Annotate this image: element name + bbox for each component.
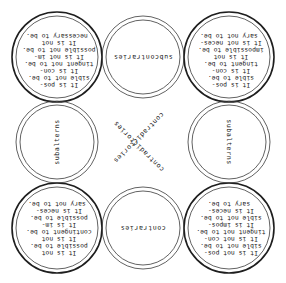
corner-top-right-text: It is pos- sible to be. It is con- tinge… [194, 32, 263, 89]
prop-line: necessary to be. [26, 32, 88, 40]
relation-label-contraries: contraries [120, 224, 166, 232]
prop-line: sary to be. [208, 200, 250, 208]
modal-square-of-opposition: It is pos- sible not to be. It is con- t… [0, 0, 286, 283]
relation-top: subcontraries [102, 16, 184, 98]
corner-top-right: It is pos- sible to be. It is con- tinge… [184, 12, 274, 102]
relation-label-contradictories-2: contradictories [112, 111, 166, 165]
relation-label-subalterns-left: subalterns [53, 119, 61, 165]
relation-label-subcontraries: subcontraries [113, 53, 172, 61]
relation-left: subalterns [16, 101, 98, 183]
relation-bottom: contraries [102, 187, 184, 269]
diagram-canvas: It is pos- sible not to be. It is con- t… [0, 0, 286, 283]
relation-label-contradictories-1: contradictories [112, 119, 166, 173]
corner-bottom-right-text: It is not pos- sible not to be. It is no… [192, 200, 265, 257]
corner-top-left: It is pos- sible not to be. It is con- t… [12, 12, 102, 102]
relation-right: subalterns [188, 101, 270, 183]
corner-top-left-text: It is pos- sible not to be. It is con- t… [19, 32, 96, 89]
relation-label-subalterns-right: subalterns [225, 119, 233, 165]
corner-bottom-left-text: It is not possible to be. It is not cont… [22, 200, 91, 257]
rotated-diagram: It is pos- sible not to be. It is con- t… [12, 12, 274, 273]
corner-bottom-left: It is not possible to be. It is not cont… [12, 183, 102, 273]
corner-bottom-right: It is not pos- sible not to be. It is no… [184, 183, 274, 273]
prop-line: sary not to be. [200, 32, 258, 40]
prop-line: sary not to be. [28, 200, 86, 208]
